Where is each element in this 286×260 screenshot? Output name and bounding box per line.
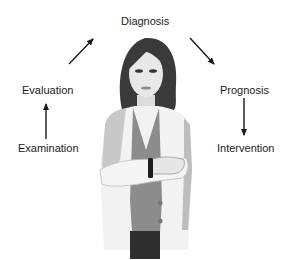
node-prognosis: Prognosis (220, 84, 269, 97)
node-examination: Examination (18, 142, 79, 155)
watch-icon (148, 158, 153, 178)
pants (130, 231, 160, 259)
clinician-illustration (0, 0, 286, 260)
node-intervention: Intervention (217, 142, 274, 155)
node-evaluation: Evaluation (22, 84, 73, 97)
node-diagnosis: Diagnosis (121, 15, 169, 28)
